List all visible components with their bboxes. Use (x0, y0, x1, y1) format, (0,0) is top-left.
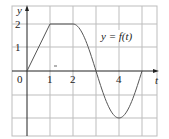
origin-label: 0 (17, 73, 23, 85)
function-graph: y t 0 1 2 4 1 2 y = f(t) (0, 0, 169, 139)
x-tick-4: 4 (116, 73, 122, 85)
curve-label: y = f(t) (100, 30, 133, 43)
t-axis-arrow-icon (153, 69, 159, 73)
y-tick-2: 2 (15, 18, 21, 30)
x-tick-1: 1 (47, 73, 53, 85)
y-tick-1: 1 (15, 41, 21, 53)
t-axis-label: t (155, 74, 159, 86)
x-tick-2: 2 (70, 73, 76, 85)
y-axis-label: y (16, 4, 22, 16)
